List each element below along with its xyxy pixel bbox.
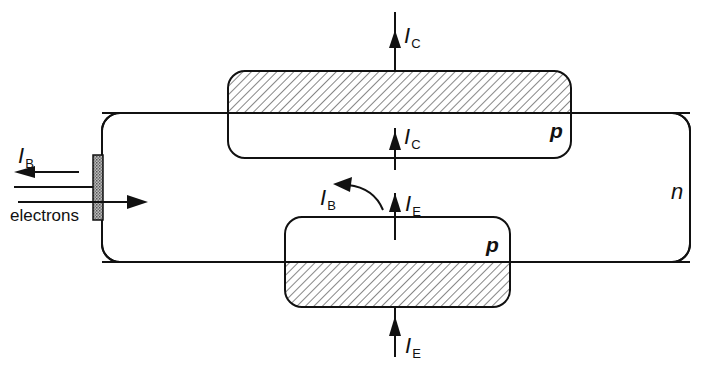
base-region-label: n bbox=[671, 181, 683, 203]
ic-top-arrow-icon bbox=[389, 12, 401, 71]
ic-inner-label: IC bbox=[404, 126, 421, 151]
ie-bottom-arrow-icon bbox=[389, 307, 401, 357]
ie-bottom-label: IE bbox=[405, 335, 421, 360]
ib-inner-label: IB bbox=[320, 187, 336, 212]
ib-curved-arrow-icon bbox=[333, 177, 383, 210]
ic-top-label: IC bbox=[404, 25, 421, 50]
ib-left-label: IB bbox=[18, 145, 34, 170]
transistor-diagram bbox=[0, 0, 703, 370]
base-contact bbox=[93, 155, 103, 220]
emitter-region-label: p bbox=[486, 234, 499, 255]
electrons-label: electrons bbox=[10, 207, 79, 224]
ie-inner-label: IE bbox=[405, 193, 421, 218]
collector-region-label: p bbox=[550, 120, 563, 141]
